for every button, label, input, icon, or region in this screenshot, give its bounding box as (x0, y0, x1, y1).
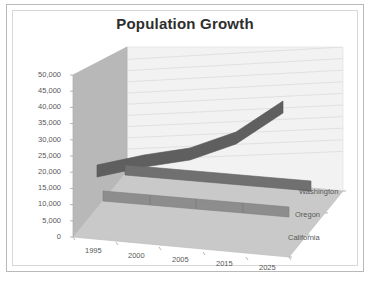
series-label-oregon: Oregon (295, 210, 320, 219)
y-tick-label-5000: 5,000 (15, 217, 61, 225)
y-tick-label-20000: 20,000 (15, 168, 61, 176)
value-axis-ticks (70, 75, 73, 237)
y-tick-label-25000: 25,000 (15, 152, 61, 160)
chart-plot-area-3d: 50,000 45,000 40,000 35,000 30,000 25,00… (7, 5, 363, 271)
y-tick-label-30000: 30,000 (15, 136, 61, 144)
x-tick-label-1995: 1995 (85, 246, 102, 255)
y-tick-label-45000: 45,000 (15, 87, 61, 95)
x-tick-label-2025: 2025 (259, 263, 276, 272)
x-tick-label-2015: 2015 (216, 259, 233, 268)
series-label-california: California (288, 233, 320, 242)
y-tick-label-0: 0 (15, 233, 61, 241)
y-tick-label-35000: 35,000 (15, 119, 61, 127)
y-tick-label-50000: 50,000 (15, 71, 61, 79)
x-tick-label-2005: 2005 (172, 255, 189, 264)
y-tick-label-15000: 15,000 (15, 184, 61, 192)
y-tick-label-40000: 40,000 (15, 103, 61, 111)
y-tick-label-10000: 10,000 (15, 200, 61, 208)
series-label-washington: Washington (299, 187, 338, 196)
chart-frame: Population Growth (6, 4, 364, 272)
x-tick-label-2000: 2000 (128, 251, 145, 260)
